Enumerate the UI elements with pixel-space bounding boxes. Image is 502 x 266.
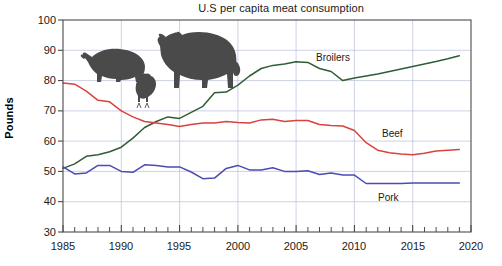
pork-line xyxy=(63,165,459,184)
meat-consumption-chart: U.S per capita meat consumption Pounds 1… xyxy=(0,0,502,266)
cow-silhouette xyxy=(158,32,241,88)
x-axis-major-tickmarks xyxy=(63,225,471,232)
animal-silhouettes xyxy=(81,32,240,108)
x-axis-minor-tickmarks xyxy=(75,227,460,232)
pig-silhouette xyxy=(81,49,145,82)
chicken-silhouette xyxy=(136,74,156,108)
chart-canvas xyxy=(0,0,502,266)
y-axis-tickmarks xyxy=(58,20,63,232)
beef-line xyxy=(63,83,459,155)
